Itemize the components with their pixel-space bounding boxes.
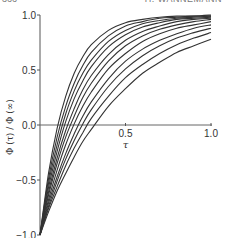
y-tick-label: 0.0 xyxy=(22,120,36,131)
curve-curve-5 xyxy=(40,18,211,235)
y-tick-label: 1.0 xyxy=(22,10,36,21)
y-tick-label: −0.5 xyxy=(16,175,36,186)
x-axis-title: τ xyxy=(123,139,129,150)
y-tick-label: 0.5 xyxy=(22,65,36,76)
x-tick-label: 0.5 xyxy=(119,128,133,139)
axes xyxy=(37,15,212,235)
line-chart: −1.0−0.50.00.51.00.51.0τΦ (τ) / Φ (∞) xyxy=(0,0,226,238)
curve-curve-4 xyxy=(40,17,211,235)
y-axis-title: Φ (τ) / Φ (∞) xyxy=(5,99,15,155)
y-tick-label: −1.0 xyxy=(16,230,36,239)
x-tick-label: 1.0 xyxy=(204,128,218,139)
